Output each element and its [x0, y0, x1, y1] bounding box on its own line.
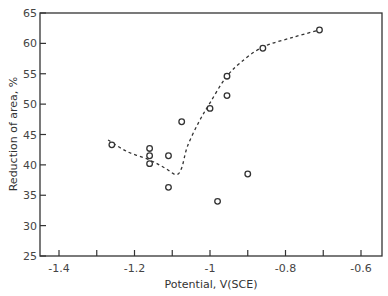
- data-point: [317, 27, 323, 33]
- data-point: [224, 73, 230, 79]
- data-point: [260, 45, 266, 51]
- x-tick-label: -1.4: [48, 262, 69, 275]
- y-axis-title: Reduction of area, %: [7, 77, 20, 192]
- trend-curve: [108, 30, 319, 175]
- scatter-chart: -1.4-1.2-1-0.8-0.6 253035404550556065 Po…: [0, 0, 388, 296]
- data-point: [147, 161, 153, 167]
- data-point: [207, 106, 213, 112]
- data-point: [215, 199, 221, 205]
- data-point: [147, 153, 153, 159]
- data-points: [109, 27, 322, 204]
- plot-frame: [40, 13, 382, 256]
- x-tick-label: -0.8: [275, 262, 296, 275]
- x-axis: -1.4-1.2-1-0.8-0.6: [48, 250, 371, 275]
- y-tick-label: 30: [23, 220, 37, 233]
- x-tick-label: -1.2: [124, 262, 145, 275]
- y-tick-label: 35: [23, 189, 37, 202]
- data-point: [166, 185, 172, 191]
- x-axis-title: Potential, V(SCE): [165, 278, 258, 291]
- data-point: [166, 153, 172, 159]
- y-tick-label: 45: [23, 129, 37, 142]
- y-tick-label: 60: [23, 37, 37, 50]
- data-point: [147, 146, 153, 152]
- y-axis: 253035404550556065: [23, 7, 46, 263]
- y-tick-label: 25: [23, 250, 37, 263]
- x-tick-label: -0.6: [350, 262, 371, 275]
- x-tick-label: -1: [205, 262, 216, 275]
- data-point: [179, 119, 185, 125]
- data-point: [109, 142, 115, 148]
- y-tick-label: 40: [23, 159, 37, 172]
- y-tick-label: 65: [23, 7, 37, 20]
- data-point: [224, 93, 230, 99]
- data-point: [245, 171, 251, 177]
- y-tick-label: 50: [23, 98, 37, 111]
- y-tick-label: 55: [23, 68, 37, 81]
